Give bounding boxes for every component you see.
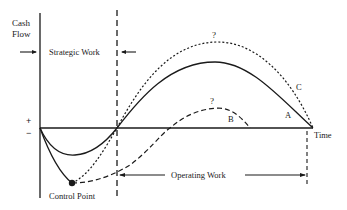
curve-c (72, 42, 313, 183)
curve-a (40, 62, 313, 155)
operating-work-right-arrow-icon (245, 173, 306, 177)
question-mark-upper: ? (212, 30, 216, 40)
cash-flow-diagram: Cash Flow Strategic Work + − Time Contro… (0, 0, 347, 210)
strategic-work-right-arrow-icon (121, 50, 136, 54)
operating-work-left-arrow-icon (119, 173, 165, 177)
plus-sign: + (26, 116, 31, 126)
curve-c-label: C (296, 82, 302, 92)
question-mark-lower: ? (210, 96, 214, 106)
y-axis-label-cash: Cash (12, 18, 31, 28)
strategic-work-label: Strategic Work (49, 47, 101, 57)
y-axis-label-flow: Flow (12, 29, 31, 39)
strategic-work-left-arrow-icon (20, 50, 37, 54)
curve-b-label: B (228, 114, 234, 124)
control-point-label: Control Point (49, 191, 96, 201)
operating-work-label: Operating Work (171, 170, 226, 180)
minus-sign: − (26, 128, 31, 138)
x-axis-label-time: Time (314, 130, 332, 140)
curve-a-label: A (285, 110, 292, 120)
control-point-marker (69, 180, 75, 186)
